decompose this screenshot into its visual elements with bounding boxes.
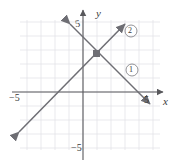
graph-figure: y x 5 5 −5 −5 1 2 [0,0,177,167]
line-1-label: 1 [129,66,133,74]
x-axis-label: x [163,96,168,107]
y-axis-label: y [96,8,101,19]
coordinate-plane-svg [0,0,177,167]
line-2-label: 2 [128,27,132,35]
intersection-point-marker [93,50,100,57]
x-tick-label-positive: 5 [144,95,149,105]
grid-lines [20,20,160,150]
y-tick-label-negative: −5 [71,143,82,153]
x-tick-label-negative: −5 [9,93,20,103]
